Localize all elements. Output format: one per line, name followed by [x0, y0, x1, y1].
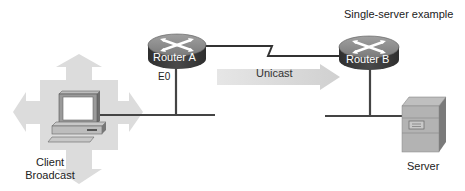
server-label: Server	[407, 161, 439, 172]
router-a-label: Router A	[153, 52, 196, 63]
client-label-line2: Broadcast	[17, 169, 83, 182]
client-label-line1: Client	[17, 156, 83, 169]
diagram-title: Single-server example	[344, 9, 453, 20]
client-label: Client Broadcast	[17, 156, 83, 182]
router-b-label: Router B	[346, 54, 389, 65]
server-icon	[402, 97, 446, 152]
serial-link	[204, 46, 342, 56]
interface-e0-label: E0	[158, 72, 170, 82]
lan-b	[325, 67, 404, 116]
unicast-label: Unicast	[256, 68, 293, 79]
